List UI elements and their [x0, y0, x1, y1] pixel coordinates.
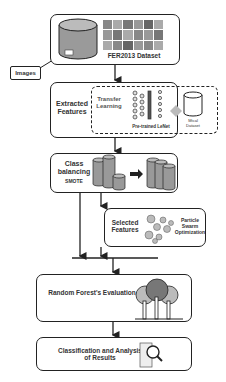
random-forest-node: Random Forest's Evaluation	[36, 274, 192, 322]
extra-dataset-label: Mtcal Dataset	[182, 119, 204, 128]
pso-label: Particle Swarm Optimization	[173, 218, 207, 235]
transfer-arrow-icon	[170, 105, 182, 117]
extracted-features-label: Extracted Features	[53, 100, 91, 116]
images-label-node: Images	[10, 66, 41, 80]
transfer-learning-region: Transfer Learning Pre-trained LeNet Mtca…	[91, 86, 218, 134]
face-image-grid	[103, 20, 163, 50]
classification-results-node: Classification and Analysis of Results	[36, 337, 192, 371]
arrow-right-icon	[130, 169, 143, 179]
analysis-magnifier-icon	[37, 338, 193, 372]
fer2013-dataset-node: FER2013 Dataset	[50, 14, 180, 65]
lenet-label: Pre-trained LeNet	[126, 124, 176, 129]
dataset-label: FER2013 Dataset	[103, 52, 165, 59]
class-balancing-node: Class balancing SMOTE	[50, 153, 178, 193]
forest-icon	[37, 275, 193, 323]
imbalanced-cylinders-icon	[51, 154, 179, 194]
images-label: Images	[11, 70, 40, 77]
selected-features-node: Selected Features Particle Swarm Optimiz…	[104, 208, 206, 247]
